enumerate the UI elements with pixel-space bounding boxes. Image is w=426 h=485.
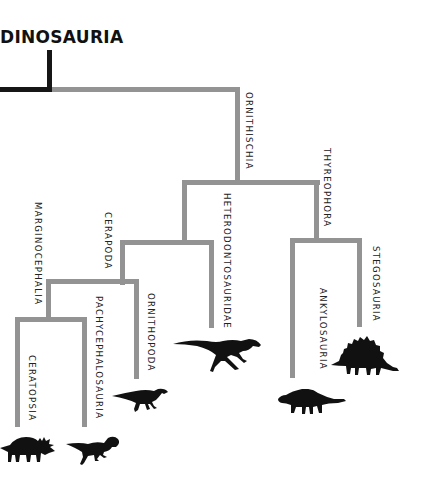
triceratops-silhouette-icon: [0, 433, 58, 465]
heterodontosaurus-silhouette-icon: [173, 339, 263, 373]
cerapoda-node-horizontal: [46, 279, 139, 284]
label-stegosauria: STEGOSAURIA: [371, 246, 380, 322]
label-thyreophora: THYREOPHORA: [322, 148, 331, 227]
ornithischia-vertical: [235, 87, 240, 185]
label-ornithopoda: ORNITHOPODA: [146, 293, 155, 372]
root-stem-horizontal: [0, 87, 52, 92]
cladogram: DINOSAURIA ORNITHISCHIA THYREOPHORA ANKY…: [0, 0, 426, 485]
cerapoda-parent-horizontal: [120, 240, 214, 245]
stegosaurus-silhouette-icon: [331, 335, 403, 377]
diagram-title: DINOSAURIA: [0, 27, 123, 47]
label-ankylosauria: ANKYLOSAURIA: [318, 288, 327, 370]
ceratopsia-branch: [15, 317, 20, 427]
heterodontosauridae-branch: [209, 240, 214, 328]
stegosauria-branch: [357, 238, 362, 327]
cerapoda-stem-vertical: [182, 180, 187, 245]
hadrosaur-silhouette-icon: [112, 388, 170, 414]
pachycephalosauria-branch: [82, 317, 87, 427]
ornithischia-node-horizontal: [182, 180, 320, 185]
label-pachycephalosauria: PACHYCEPHALOSAURIA: [94, 296, 103, 419]
marginocephalia-node-horizontal: [15, 317, 87, 322]
thyreophora-vertical: [314, 180, 319, 243]
marginocephalia-vertical: [46, 279, 51, 321]
label-ornithischia: ORNITHISCHIA: [244, 92, 253, 170]
pachycephalosaurus-silhouette-icon: [66, 435, 122, 467]
thyreophora-node-horizontal: [290, 238, 362, 243]
label-marginocephalia: MARGINOCEPHALIA: [33, 202, 42, 305]
root-stem-vertical: [47, 50, 52, 92]
ankylosaurus-silhouette-icon: [278, 389, 348, 415]
label-ceratopsia: CERATOPSIA: [27, 355, 36, 421]
label-heterodontosauridae: HETERODONTOSAURIDAE: [222, 193, 231, 329]
ornithischia-horizontal: [52, 87, 240, 92]
ornithopoda-branch: [134, 279, 139, 379]
label-cerapoda: CERAPODA: [103, 212, 112, 270]
ankylosauria-branch: [290, 238, 295, 378]
